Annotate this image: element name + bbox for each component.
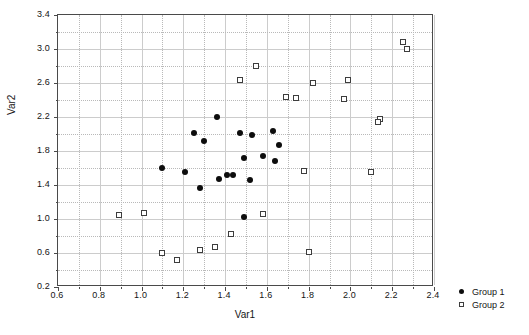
- data-point-group-1: [272, 158, 278, 164]
- gridline-horizontal: [58, 185, 432, 186]
- x-axis-tick-label: 1.0: [121, 290, 161, 300]
- legend-entry-group-2: Group 2: [452, 298, 505, 311]
- scatter-plot-figure: 0.20.61.01.41.82.22.63.03.4 Var1 Var2 Gr…: [0, 0, 529, 335]
- gridline-horizontal: [58, 49, 432, 50]
- data-point-group-1: [191, 130, 197, 136]
- gridline-horizontal-minor: [58, 270, 432, 271]
- gridline-horizontal-minor: [58, 202, 432, 203]
- x-axis-tick-label: 1.4: [204, 290, 244, 300]
- data-point-group-2: [197, 247, 203, 253]
- data-point-group-2: [159, 250, 165, 256]
- y-axis-label: Var2: [6, 95, 17, 115]
- data-point-group-1: [197, 185, 203, 191]
- legend-marker-filled-circle-icon: [452, 289, 470, 294]
- data-point-group-2: [253, 63, 259, 69]
- gridline-horizontal-minor: [58, 168, 432, 169]
- x-axis-minor-tick: [288, 287, 289, 289]
- gridline-vertical-minor: [79, 15, 80, 285]
- legend: Group 1 Group 2: [452, 285, 505, 311]
- y-axis-tick: [54, 49, 58, 50]
- y-axis-tick: [54, 253, 58, 254]
- x-axis-tick-label: 2.4: [413, 290, 453, 300]
- y-axis-tick-label: 2.6: [14, 77, 50, 87]
- data-point-group-2: [260, 211, 266, 217]
- gridline-horizontal: [58, 83, 432, 84]
- x-axis-tick-label: 2.0: [329, 290, 369, 300]
- data-point-group-1: [276, 142, 282, 148]
- y-axis-tick-label: 1.8: [14, 145, 50, 155]
- y-axis-tick: [54, 185, 58, 186]
- gridline-vertical: [183, 15, 184, 285]
- gridline-vertical: [225, 15, 226, 285]
- y-axis-tick-label: 3.4: [14, 9, 50, 19]
- x-axis-tick-label: 0.8: [79, 290, 119, 300]
- gridline-vertical-minor: [330, 15, 331, 285]
- data-point-group-1: [241, 155, 247, 161]
- gridline-vertical: [100, 15, 101, 285]
- data-point-group-1: [247, 177, 253, 183]
- data-point-group-1: [270, 128, 276, 134]
- data-point-group-2: [404, 46, 410, 52]
- gridline-vertical-minor: [371, 15, 372, 285]
- gridline-vertical-minor: [413, 15, 414, 285]
- x-axis-tick-label: 2.2: [371, 290, 411, 300]
- data-point-group-2: [212, 244, 218, 250]
- data-point-group-1: [216, 176, 222, 182]
- data-point-group-2: [283, 94, 289, 100]
- x-axis-minor-tick: [162, 287, 163, 289]
- legend-label-group-1: Group 1: [470, 287, 505, 297]
- gridline-vertical: [267, 15, 268, 285]
- gridline-vertical: [350, 15, 351, 285]
- gridline-vertical-minor: [121, 15, 122, 285]
- legend-marker-open-square-icon: [452, 302, 470, 307]
- x-axis-tick-label: 0.6: [37, 290, 77, 300]
- data-point-group-1: [249, 132, 255, 138]
- gridline-vertical-minor: [288, 15, 289, 285]
- gridline-vertical: [392, 15, 393, 285]
- data-point-group-2: [228, 231, 234, 237]
- y-axis-tick-label: 1.4: [14, 179, 50, 189]
- data-point-group-2: [237, 77, 243, 83]
- data-point-group-1: [237, 130, 243, 136]
- data-point-group-1: [214, 114, 220, 120]
- data-point-group-1: [230, 172, 236, 178]
- gridline-horizontal: [58, 151, 432, 152]
- data-point-group-2: [345, 77, 351, 83]
- y-axis-tick-label: 0.6: [14, 247, 50, 257]
- x-axis-minor-tick: [121, 287, 122, 289]
- legend-label-group-2: Group 2: [470, 300, 505, 310]
- x-axis-minor-tick: [330, 287, 331, 289]
- x-axis-minor-tick: [371, 287, 372, 289]
- data-point-group-2: [375, 119, 381, 125]
- data-point-group-2: [306, 249, 312, 255]
- plot-area: 0.20.61.01.41.82.22.63.03.4: [57, 14, 433, 286]
- y-axis-tick: [54, 219, 58, 220]
- data-point-group-2: [368, 169, 374, 175]
- gridline-vertical-minor: [162, 15, 163, 285]
- gridline-vertical-minor: [204, 15, 205, 285]
- x-axis-minor-tick: [204, 287, 205, 289]
- y-axis-tick-label: 1.0: [14, 213, 50, 223]
- data-point-group-2: [341, 96, 347, 102]
- data-point-group-2: [301, 168, 307, 174]
- data-point-group-1: [224, 172, 230, 178]
- data-point-group-1: [201, 138, 207, 144]
- data-point-group-1: [182, 169, 188, 175]
- y-axis-tick: [54, 117, 58, 118]
- y-axis-tick-label: 3.0: [14, 43, 50, 53]
- x-axis-tick-label: 1.8: [288, 290, 328, 300]
- data-point-group-2: [174, 257, 180, 263]
- gridline-horizontal-minor: [58, 66, 432, 67]
- y-axis-tick: [54, 15, 58, 16]
- gridline-horizontal-minor: [58, 100, 432, 101]
- data-point-group-2: [293, 95, 299, 101]
- gridline-vertical: [142, 15, 143, 285]
- y-axis-tick: [54, 151, 58, 152]
- x-axis-minor-tick: [413, 287, 414, 289]
- data-point-group-2: [310, 80, 316, 86]
- x-axis-minor-tick: [79, 287, 80, 289]
- data-point-group-2: [116, 212, 122, 218]
- gridline-horizontal-minor: [58, 32, 432, 33]
- x-axis-tick-label: 1.6: [246, 290, 286, 300]
- x-axis-minor-tick: [246, 287, 247, 289]
